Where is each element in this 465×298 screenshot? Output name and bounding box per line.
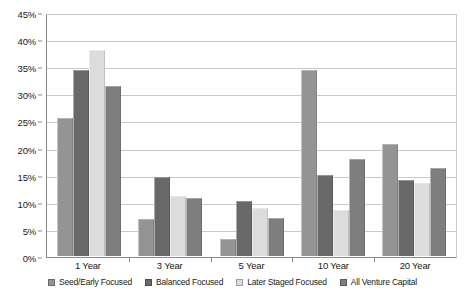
y-axis-tick-mark — [38, 149, 42, 150]
y-axis-tick-label: 25% — [18, 117, 36, 128]
legend-swatch-icon — [340, 279, 347, 286]
bar — [220, 239, 236, 256]
bars-layer — [48, 15, 455, 256]
bar-fill — [382, 144, 398, 256]
bar — [170, 196, 186, 256]
y-axis-tick-label: 40% — [18, 36, 36, 47]
plot-wrapper — [46, 14, 457, 258]
bar — [317, 175, 333, 256]
legend-swatch-icon — [236, 279, 243, 286]
bar-fill — [349, 159, 365, 256]
bar-fill — [268, 218, 284, 256]
bar — [138, 219, 154, 256]
x-axis-tick-label: 20 Year — [374, 260, 456, 271]
bar-fill — [170, 196, 186, 256]
legend-item[interactable]: Seed/Early Focused — [48, 277, 132, 287]
bar-fill — [333, 210, 349, 256]
bar — [398, 180, 414, 256]
bar — [349, 159, 365, 256]
bar-fill — [186, 198, 202, 256]
bar — [57, 118, 73, 256]
bar-group — [292, 15, 373, 256]
bar — [268, 218, 284, 256]
y-axis-tick-mark — [38, 258, 42, 259]
bar-fill — [317, 175, 333, 256]
bar-fill — [414, 183, 430, 256]
y-axis-tick-mark — [38, 14, 42, 15]
bar-group — [48, 15, 129, 256]
x-axis-tick-label: 5 Year — [211, 260, 293, 271]
legend-label: All Venture Capital — [351, 277, 417, 287]
x-axis-tick-label: 3 Year — [129, 260, 211, 271]
bar — [430, 168, 446, 256]
legend-label: Balanced Focused — [156, 277, 223, 287]
bar — [105, 86, 121, 256]
bar — [382, 144, 398, 256]
legend-item[interactable]: All Venture Capital — [340, 277, 417, 287]
y-axis-tick-mark — [38, 95, 42, 96]
legend-label: Seed/Early Focused — [59, 277, 132, 287]
bar-fill — [73, 70, 89, 256]
bar-group — [211, 15, 292, 256]
bar — [333, 210, 349, 256]
bar-fill — [89, 50, 105, 256]
bar-fill — [220, 239, 236, 256]
bar — [301, 70, 317, 256]
y-axis-tick-label: 30% — [18, 90, 36, 101]
plot-area — [46, 14, 457, 258]
y-axis-tick-label: 35% — [18, 63, 36, 74]
legend-swatch-icon — [48, 279, 55, 286]
legend-label: Later Staged Focused — [247, 277, 327, 287]
bar-fill — [430, 168, 446, 256]
bar — [73, 70, 89, 256]
bar — [186, 198, 202, 256]
bar-fill — [138, 219, 154, 256]
y-axis-tick-mark — [38, 41, 42, 42]
bar-fill — [252, 208, 268, 256]
bar-fill — [398, 180, 414, 256]
bar-fill — [105, 86, 121, 256]
y-axis-tick-mark — [38, 122, 42, 123]
x-axis: 1 Year3 Year5 Year10 Year20 Year — [47, 260, 456, 271]
y-axis-tick-mark — [38, 230, 42, 231]
x-axis-tick-label: 10 Year — [292, 260, 374, 271]
y-axis-tick-label: 15% — [18, 171, 36, 182]
legend-item[interactable]: Balanced Focused — [145, 277, 223, 287]
bar — [89, 50, 105, 256]
y-axis-tick-label: 10% — [18, 198, 36, 209]
y-axis-tick-label: 5% — [23, 225, 36, 236]
y-axis: 0%5%10%15%20%25%30%35%40%45% — [0, 14, 42, 258]
bar-fill — [154, 177, 170, 256]
bar — [236, 201, 252, 256]
legend-item[interactable]: Later Staged Focused — [236, 277, 327, 287]
bar-group — [374, 15, 455, 256]
legend-swatch-icon — [145, 279, 152, 286]
y-axis-tick-mark — [38, 68, 42, 69]
bar — [252, 208, 268, 256]
bar-fill — [236, 201, 252, 256]
y-axis-tick-mark — [38, 176, 42, 177]
bar-group — [129, 15, 210, 256]
bar — [154, 177, 170, 256]
y-axis-tick-label: 45% — [18, 9, 36, 20]
bar-fill — [57, 118, 73, 256]
y-axis-tick-mark — [38, 203, 42, 204]
bar-chart: 0%5%10%15%20%25%30%35%40%45% 1 Year3 Yea… — [0, 0, 465, 298]
y-axis-tick-label: 20% — [18, 144, 36, 155]
chart-legend: Seed/Early FocusedBalanced FocusedLater … — [0, 277, 465, 287]
bar — [414, 183, 430, 256]
bar-fill — [301, 70, 317, 256]
x-axis-tick-label: 1 Year — [47, 260, 129, 271]
y-axis-tick-label: 0% — [23, 253, 36, 264]
